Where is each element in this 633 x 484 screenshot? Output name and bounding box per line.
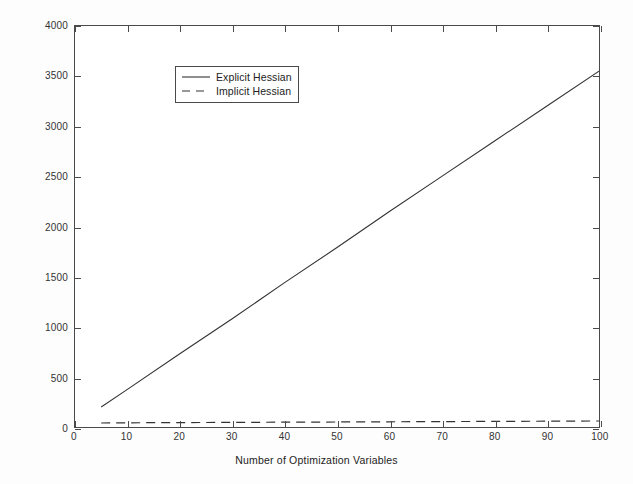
y-tick-label: 3500 bbox=[45, 70, 68, 81]
y-tick-label: 1000 bbox=[45, 322, 68, 333]
y-tick-label: 2500 bbox=[45, 171, 68, 182]
y-tick-label: 500 bbox=[51, 372, 68, 383]
figure-canvas: Explicit Hessian Implicit Hessian 010203… bbox=[0, 0, 633, 484]
y-tick-label: 1500 bbox=[45, 271, 68, 282]
y-tick-labels: 05001000150020002500300035004000 bbox=[0, 0, 633, 484]
y-tick-label: 2000 bbox=[45, 221, 68, 232]
x-axis-title: Number of Optimization Variables bbox=[0, 454, 633, 466]
y-tick-label: 4000 bbox=[45, 20, 68, 31]
y-tick-label: 3000 bbox=[45, 120, 68, 131]
y-tick-label: 0 bbox=[62, 423, 68, 434]
